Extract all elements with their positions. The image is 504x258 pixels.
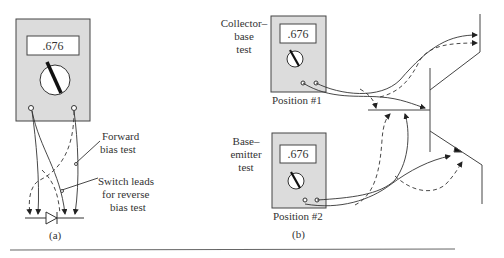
multimeter-position-1: .676: [271, 16, 326, 92]
collector-base-label-2: base: [218, 30, 270, 43]
base-emitter-label-3: test: [222, 161, 270, 174]
leads-position-2: [305, 114, 462, 206]
position-1-label: Position #1: [272, 94, 322, 107]
caption-b: (b): [292, 228, 305, 241]
collector-lead: [430, 14, 480, 90]
meter-a-reading: .676: [43, 39, 64, 53]
forward-bias-label-1: Forward: [102, 130, 139, 143]
transistor-icon: [368, 14, 482, 204]
meter-a-terminal-left: [29, 106, 34, 111]
switch-leads-label-1: Switch leads: [98, 175, 154, 188]
multimeter-a: .676: [16, 19, 90, 121]
base-emitter-label-2: emitter: [222, 148, 270, 161]
leads-position-1: [303, 35, 477, 108]
collector-base-label-3: test: [218, 43, 270, 56]
meter-2-reading: .676: [288, 147, 309, 161]
emitter-lead: [430, 131, 482, 204]
collector-base-label-1: Collector–: [218, 17, 270, 30]
forward-bias-label-2: bias test: [100, 143, 136, 156]
meter-1-reading: .676: [288, 27, 309, 41]
meter-a-terminal-right: [72, 106, 77, 111]
leads-a: [29, 111, 100, 214]
bottom-rule: [10, 249, 455, 250]
base-emitter-label-1: Base–: [222, 135, 270, 148]
switch-leads-label-2: for reverse: [102, 188, 149, 201]
caption-a: (a): [49, 229, 61, 242]
position-2-label: Position #2: [273, 210, 323, 223]
switch-leads-label-3: bias test: [110, 201, 146, 214]
multimeter-position-2: .676: [272, 133, 326, 208]
